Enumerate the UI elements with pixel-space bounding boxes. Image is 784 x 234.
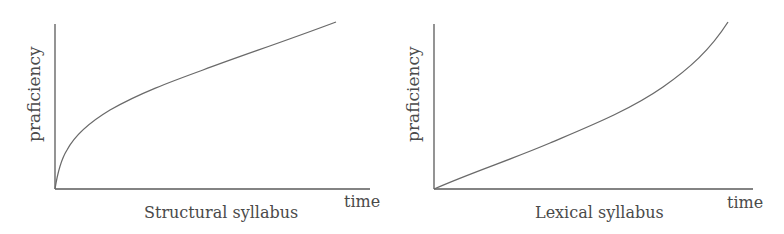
figure-svg: praficiency time Structural syllabus pra… xyxy=(0,0,784,234)
panel-title: Structural syllabus xyxy=(144,203,298,222)
proficiency-curve xyxy=(55,22,336,189)
panel-lexical: praficiency time Lexical syllabus xyxy=(403,22,763,222)
panel-structural: praficiency time Structural syllabus xyxy=(24,22,380,222)
figure: praficiency time Structural syllabus pra… xyxy=(0,0,784,234)
y-axis-label: praficiency xyxy=(403,46,423,142)
x-axis-label: time xyxy=(344,192,380,211)
proficiency-curve xyxy=(434,22,728,189)
y-axis-label: praficiency xyxy=(24,46,44,142)
panel-title: Lexical syllabus xyxy=(535,203,664,222)
x-axis-label: time xyxy=(727,193,763,212)
